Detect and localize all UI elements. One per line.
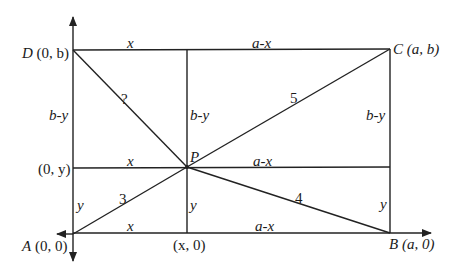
label-bottom-right: a-x xyxy=(255,218,274,234)
label-top-left: x xyxy=(126,35,134,51)
label-center-lower: y xyxy=(188,197,197,213)
label-left-lower: y xyxy=(75,197,84,213)
label-top-right: a-x xyxy=(252,35,271,51)
label-PB-distance: 4 xyxy=(295,190,303,206)
label-PA-distance: 3 xyxy=(119,191,127,207)
segment-PC xyxy=(187,49,390,167)
label-P: P xyxy=(189,149,199,165)
horizontal-through-P xyxy=(73,167,390,168)
label-0-y: (0, y) xyxy=(38,161,71,178)
segment-PD xyxy=(73,50,187,167)
label-center-upper: b-y xyxy=(190,107,209,123)
segment-PB xyxy=(187,167,390,233)
label-bottom-left: x xyxy=(126,218,134,234)
label-left-upper: b-y xyxy=(49,107,68,123)
point-P-dot xyxy=(185,165,189,169)
label-mid-left: x xyxy=(126,153,134,169)
label-x-0: (x, 0) xyxy=(173,237,206,254)
label-B: B (a, 0) xyxy=(389,236,434,253)
label-D: D (0, b) xyxy=(21,45,69,62)
label-A: A (0, 0) xyxy=(21,238,67,255)
label-PC-distance: 5 xyxy=(290,90,298,106)
side-DC xyxy=(73,49,390,50)
rectangle-diagram: D (0, b) C (a, b) A (0, 0) B (a, 0) P (0… xyxy=(0,0,458,270)
label-PD-distance: ? xyxy=(121,91,128,107)
label-right-lower: y xyxy=(378,196,387,212)
label-C: C (a, b) xyxy=(393,41,439,58)
label-right-upper: b-y xyxy=(366,107,385,123)
label-mid-right: a-x xyxy=(253,153,272,169)
